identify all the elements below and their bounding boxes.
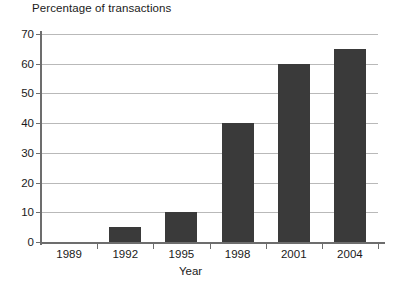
x-axis-line [40,242,385,244]
y-axis-tick-label: 40 [4,117,34,129]
x-axis-title: Year [0,265,393,277]
bar [109,227,141,242]
x-axis-tick [266,244,267,249]
y-axis-tick-label: 0 [4,236,34,248]
x-axis-tick [322,244,323,249]
y-axis-tick-label: 20 [4,177,34,189]
bar [165,212,197,242]
y-axis-tick [36,123,41,124]
x-axis-tick [153,244,154,249]
y-axis-title: Percentage of transactions [32,2,171,14]
x-axis-tick-label: 1998 [225,248,251,260]
y-axis-tick-label: 10 [4,206,34,218]
bar [278,64,310,242]
y-axis-tick-label: 60 [4,58,34,70]
y-axis-tick [36,183,41,184]
y-axis-tick-label: 50 [4,87,34,99]
x-axis-tick-label: 1989 [56,248,82,260]
x-axis-tick-label: 2001 [281,248,307,260]
bar-chart-figure: Percentage of transactions 0102030405060… [0,0,393,284]
x-axis-tick-label: 1995 [169,248,195,260]
y-axis-tick-label-group: 010203040506070 [0,0,34,284]
y-axis-tick [36,212,41,213]
y-axis-tick [36,34,41,35]
y-axis-tick [36,242,41,243]
x-axis-tick-label: 1992 [112,248,138,260]
x-axis-tick-label: 2004 [337,248,363,260]
y-axis-tick-label: 30 [4,147,34,159]
bar-series-layer [41,34,378,242]
y-axis-tick [36,64,41,65]
y-axis-tick [36,153,41,154]
x-axis-tick [97,244,98,249]
x-axis-tick [210,244,211,249]
x-axis-title-text: Year [179,265,202,277]
y-axis-tick-label: 70 [4,28,34,40]
y-axis-tick [36,93,41,94]
x-axis-tick [378,244,379,249]
bar [222,123,254,242]
bar [334,49,366,242]
x-axis-tick-label-group: 198919921995199820012004 [41,248,378,266]
